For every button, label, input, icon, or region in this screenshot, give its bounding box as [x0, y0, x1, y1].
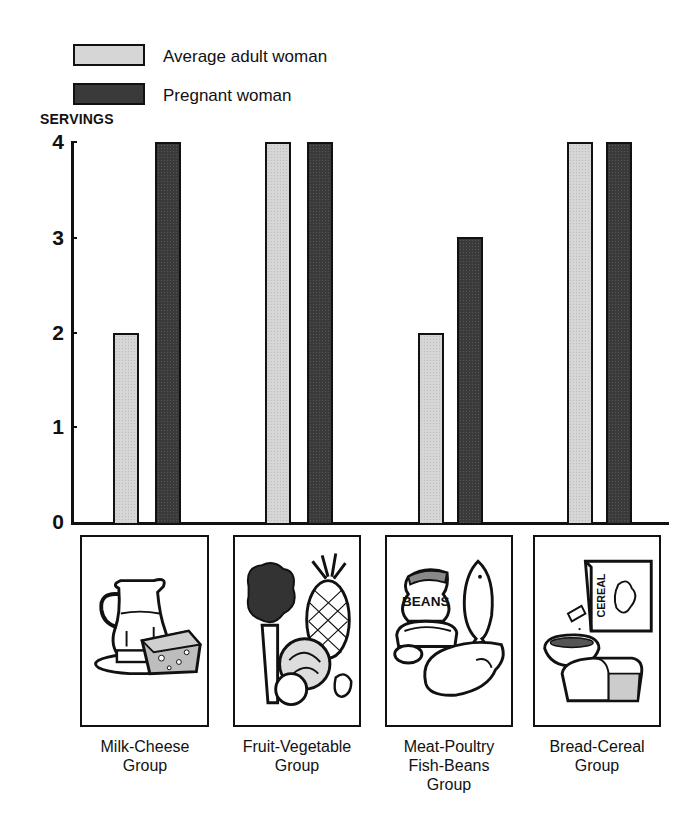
- legend-label-pregnant: Pregnant woman: [163, 86, 292, 106]
- tick-label-0: 0: [44, 511, 64, 533]
- tick-mark-3: [71, 237, 77, 239]
- legend-label-average: Average adult woman: [163, 47, 327, 67]
- group-picture-bread-cereal: CEREAL: [533, 535, 661, 727]
- tick-mark-4: [71, 141, 77, 143]
- category-label-milk-cheese: Milk-Cheese Group: [70, 737, 220, 775]
- beans-label: BEANS: [402, 594, 449, 609]
- milk-pitcher-cheese-icon: [82, 537, 207, 725]
- bread-cereal-icon: CEREAL: [535, 537, 659, 725]
- group-picture-milk-cheese: [80, 535, 209, 727]
- legend-swatch-pregnant: [73, 83, 145, 105]
- bar-average-0: [113, 333, 139, 524]
- tick-mark-1: [71, 426, 77, 428]
- meat-fish-beans-icon: BEANS: [387, 537, 511, 725]
- tick-mark-2: [71, 332, 77, 334]
- bar-average-1: [265, 142, 291, 523]
- bar-average-3: [567, 142, 593, 523]
- tick-label-3: 3: [44, 227, 64, 249]
- bar-pregnant-0: [155, 142, 181, 523]
- group-picture-meat-fish-beans: BEANS: [385, 535, 513, 727]
- bar-pregnant-3: [606, 142, 632, 523]
- bar-pregnant-1: [307, 142, 333, 523]
- cereal-label: CEREAL: [595, 573, 607, 617]
- tick-label-1: 1: [44, 416, 64, 438]
- tick-label-4: 4: [44, 131, 64, 153]
- category-label-fruit-vegetable: Fruit-Vegetable Group: [222, 737, 372, 775]
- legend-swatch-average: [73, 44, 145, 66]
- fruit-vegetable-icon: [235, 537, 359, 725]
- group-picture-fruit-vegetable: [233, 535, 361, 727]
- tick-label-2: 2: [44, 322, 64, 344]
- category-label-meat-fish-beans: Meat-Poultry Fish-Beans Group: [374, 737, 524, 794]
- category-label-bread-cereal: Bread-Cereal Group: [522, 737, 672, 775]
- bar-average-2: [418, 333, 444, 524]
- bar-pregnant-2: [457, 237, 483, 523]
- y-axis-title: SERVINGS: [40, 111, 114, 127]
